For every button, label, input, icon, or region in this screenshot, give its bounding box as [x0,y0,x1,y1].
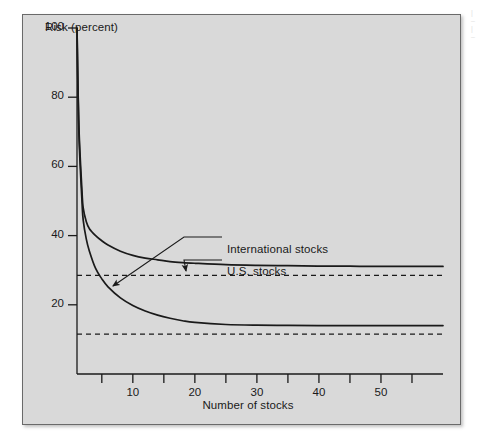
x-axis-title: Number of stocks [0,399,496,411]
x-tick-label: 10 [116,386,150,398]
x-tick-label: 20 [178,386,212,398]
international-stocks-annotation: International stocks [227,243,328,255]
y-tick-label: 80 [30,89,64,101]
y-tick-label: 100 [30,20,64,32]
figure-container: Risk (percent) Number of stocks 20406080… [0,0,496,433]
x-tick-label: 50 [364,386,398,398]
us-stocks-annotation: U.S. stocks [227,265,286,277]
x-tick-label: 40 [302,386,336,398]
y-tick-label: 20 [30,297,64,309]
chart-plot-area [0,0,496,433]
y-tick-label: 60 [30,158,64,170]
scan-artifact-marks: | – | – [471,9,475,41]
x-tick-label: 30 [240,386,274,398]
y-tick-label: 40 [30,228,64,240]
